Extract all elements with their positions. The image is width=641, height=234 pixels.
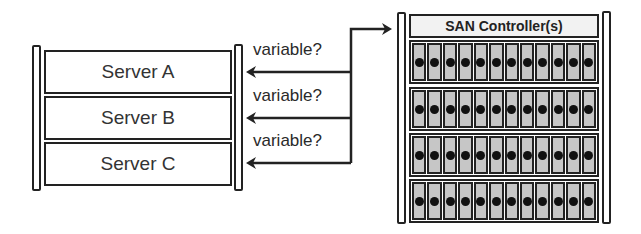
disk-drive [458,43,472,81]
disk-drive [582,43,596,81]
san-rack-left-rail [397,12,406,224]
drive-led-icon [569,105,578,114]
disk-drive [443,182,457,220]
drive-shelf [409,133,599,177]
drive-led-icon [523,197,532,206]
drive-led-icon [584,197,593,206]
disk-drive [520,43,534,81]
disk-drive [520,136,534,174]
drive-led-icon [538,105,547,114]
drive-led-icon [446,197,455,206]
drive-led-icon [507,151,516,160]
drive-led-icon [446,151,455,160]
disk-drive [566,43,580,81]
disk-drive [427,136,441,174]
drive-led-icon [461,197,470,206]
drive-led-icon [538,151,547,160]
disk-drive [566,136,580,174]
disk-drive [458,136,472,174]
drive-led-icon [584,105,593,114]
drive-led-icon [476,151,485,160]
disk-drive [566,90,580,128]
disk-drive [489,90,503,128]
disk-drive [443,90,457,128]
drive-led-icon [415,151,424,160]
drive-led-icon [523,105,532,114]
disk-drive [427,182,441,220]
disk-drive [535,136,549,174]
san-controller-label: SAN Controller(s) [445,18,562,34]
drive-led-icon [554,197,563,206]
disk-drive [551,182,565,220]
drive-led-icon [415,197,424,206]
drive-led-icon [507,105,516,114]
disk-drive [427,90,441,128]
disk-drive [535,43,549,81]
drive-led-icon [476,197,485,206]
disk-drive [551,43,565,81]
san-controller: SAN Controller(s) [409,14,599,38]
drive-led-icon [492,105,501,114]
disk-drive [474,136,488,174]
drive-led-icon [507,197,516,206]
disk-drive [582,136,596,174]
disk-drive [535,90,549,128]
disk-drive [551,136,565,174]
drive-led-icon [569,151,578,160]
drive-led-icon [523,58,532,67]
drive-led-icon [492,197,501,206]
drive-shelf [409,179,599,223]
drive-led-icon [492,58,501,67]
disk-drive [427,43,441,81]
drive-led-icon [415,58,424,67]
disk-drive [489,182,503,220]
drive-led-icon [461,58,470,67]
disk-drive [443,136,457,174]
drive-led-icon [584,58,593,67]
disk-drive [474,43,488,81]
drive-led-icon [430,105,439,114]
drive-led-icon [554,151,563,160]
drive-led-icon [461,151,470,160]
disk-drive [412,182,426,220]
drive-led-icon [523,151,532,160]
disk-drive [474,182,488,220]
drive-led-icon [446,105,455,114]
disk-drive [520,90,534,128]
disk-drive [458,182,472,220]
disk-drive [489,43,503,81]
disk-drive [582,182,596,220]
disk-drive [520,182,534,220]
disk-drive [505,90,519,128]
disk-drive [412,136,426,174]
drive-led-icon [430,58,439,67]
drive-led-icon [430,151,439,160]
disk-drive [505,43,519,81]
drive-led-icon [507,58,516,67]
drive-shelf [409,40,599,84]
disk-drive [505,136,519,174]
disk-drive [412,43,426,81]
drive-led-icon [554,58,563,67]
disk-drive [412,90,426,128]
drive-shelf [409,87,599,131]
drive-led-icon [476,58,485,67]
drive-led-icon [569,58,578,67]
drive-led-icon [538,58,547,67]
drive-led-icon [430,197,439,206]
disk-drive [474,90,488,128]
disk-drive [443,43,457,81]
drive-led-icon [461,105,470,114]
drive-led-icon [476,105,485,114]
san-rack-right-rail [602,11,611,224]
drive-led-icon [584,151,593,160]
disk-drive [582,90,596,128]
disk-drive [489,136,503,174]
drive-led-icon [554,105,563,114]
disk-drive [551,90,565,128]
disk-drive [566,182,580,220]
disk-drive [535,182,549,220]
drive-led-icon [569,197,578,206]
drive-led-icon [415,105,424,114]
disk-drive [505,182,519,220]
